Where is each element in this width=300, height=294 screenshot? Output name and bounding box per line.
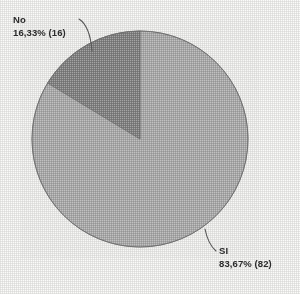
pie-label-si-value: 83,67% (82) — [219, 258, 272, 271]
leader-line-si — [205, 229, 216, 251]
pie-label-si: SI 83,67% (82) — [219, 245, 272, 270]
pie-label-no-value: 16,33% (16) — [13, 27, 66, 40]
pie-label-no-name: No — [13, 14, 66, 27]
pie-chart: No 16,33% (16) SI 83,67% (82) — [0, 0, 300, 294]
pie-label-no: No 16,33% (16) — [13, 14, 66, 39]
pie-label-si-name: SI — [219, 245, 272, 258]
